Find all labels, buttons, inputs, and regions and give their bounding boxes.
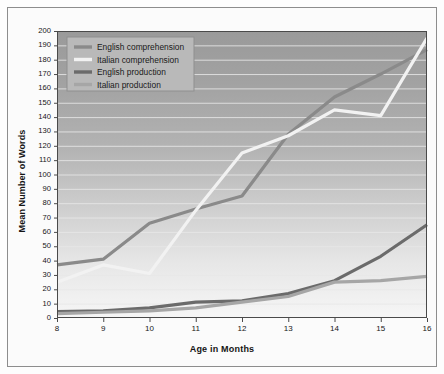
legend-item-label: English comprehension bbox=[97, 43, 184, 51]
y-tick-label: 90 bbox=[23, 185, 51, 193]
x-tick-label: 13 bbox=[276, 325, 300, 333]
figure-container: Mean Number of Words Age in Months 01020… bbox=[0, 0, 444, 374]
x-tick-label: 12 bbox=[230, 325, 254, 333]
y-tick-label: 200 bbox=[23, 27, 51, 35]
y-tick-label: 0 bbox=[23, 314, 51, 322]
y-tick-label: 30 bbox=[23, 271, 51, 279]
legend-item-label: English production bbox=[97, 68, 166, 76]
y-tick-label: 190 bbox=[23, 41, 51, 49]
y-tick-label: 80 bbox=[23, 199, 51, 207]
x-tick-label: 16 bbox=[415, 325, 439, 333]
y-tick-label: 160 bbox=[23, 84, 51, 92]
y-tick-label: 140 bbox=[23, 113, 51, 121]
y-tick-label: 120 bbox=[23, 142, 51, 150]
y-tick-marks bbox=[54, 32, 57, 319]
y-tick-label: 40 bbox=[23, 257, 51, 265]
y-tick-label: 20 bbox=[23, 285, 51, 293]
y-tick-label: 110 bbox=[23, 156, 51, 164]
y-tick-label: 150 bbox=[23, 99, 51, 107]
x-tick-label: 10 bbox=[138, 325, 162, 333]
legend-item-label: Italian production bbox=[97, 81, 161, 89]
legend-item-label: Italian comprehension bbox=[97, 56, 179, 64]
x-tick-label: 9 bbox=[91, 325, 115, 333]
y-tick-label: 180 bbox=[23, 56, 51, 64]
x-tick-label: 11 bbox=[184, 325, 208, 333]
y-tick-label: 100 bbox=[23, 171, 51, 179]
line-chart bbox=[0, 0, 444, 374]
y-tick-label: 170 bbox=[23, 70, 51, 78]
x-tick-marks bbox=[58, 318, 428, 322]
x-tick-label: 14 bbox=[323, 325, 347, 333]
y-tick-label: 70 bbox=[23, 214, 51, 222]
x-tick-label: 15 bbox=[369, 325, 393, 333]
y-tick-label: 130 bbox=[23, 127, 51, 135]
y-tick-label: 10 bbox=[23, 300, 51, 308]
y-tick-label: 60 bbox=[23, 228, 51, 236]
y-tick-label: 50 bbox=[23, 242, 51, 250]
x-tick-label: 8 bbox=[45, 325, 69, 333]
